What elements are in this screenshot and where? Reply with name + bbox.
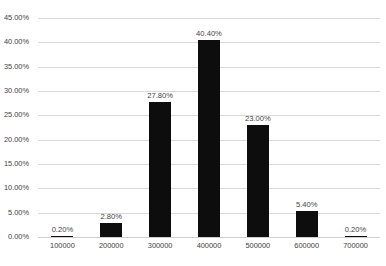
bar[interactable] <box>345 236 367 238</box>
y-axis-tick-label: 5.00% <box>0 209 29 217</box>
bar-slot: 5.40% <box>282 18 331 237</box>
bar[interactable] <box>100 223 122 237</box>
y-axis-tick-label: 45.00% <box>0 14 29 22</box>
bar-slot: 2.80% <box>87 18 136 237</box>
gridline <box>38 237 380 238</box>
x-axis-tick-label: 500000 <box>233 241 282 251</box>
y-axis-tick-label: 40.00% <box>0 38 29 46</box>
bar-slot: 0.20% <box>38 18 87 237</box>
x-axis: 1000002000003000004000005000006000007000… <box>38 241 380 255</box>
y-axis-tick-label: 20.00% <box>0 136 29 144</box>
bar-slot: 23.00% <box>233 18 282 237</box>
x-axis-tick-label: 700000 <box>331 241 380 251</box>
x-axis-tick-label: 300000 <box>136 241 185 251</box>
x-axis-tick-label: 100000 <box>38 241 87 251</box>
x-axis-tick-label: 600000 <box>282 241 331 251</box>
bar-value-label: 40.40% <box>196 29 222 38</box>
y-axis-tick-label: 15.00% <box>0 160 29 168</box>
bars-layer: 0.20%2.80%27.80%40.40%23.00%5.40%0.20% <box>38 18 380 237</box>
y-axis-tick-label: 35.00% <box>0 63 29 71</box>
bar-slot: 40.40% <box>185 18 234 237</box>
bar-value-label: 5.40% <box>296 200 318 209</box>
x-axis-tick-label: 400000 <box>185 241 234 251</box>
x-axis-tick-label: 200000 <box>87 241 136 251</box>
bar[interactable] <box>247 125 269 237</box>
bar[interactable] <box>51 236 73 238</box>
bar-value-label: 27.80% <box>147 91 173 100</box>
bar-value-label: 0.20% <box>345 225 367 234</box>
bar-slot: 0.20% <box>331 18 380 237</box>
bar-chart: 0.00%5.00%10.00%15.00%20.00%25.00%30.00%… <box>0 0 386 266</box>
bar-slot: 27.80% <box>136 18 185 237</box>
bar-value-label: 2.80% <box>100 212 122 221</box>
bar[interactable] <box>296 211 318 237</box>
y-axis-tick-label: 0.00% <box>0 233 29 241</box>
bar[interactable] <box>149 102 171 237</box>
bar-value-label: 0.20% <box>52 225 74 234</box>
y-axis-tick-label: 25.00% <box>0 111 29 119</box>
bar-value-label: 23.00% <box>245 114 271 123</box>
y-axis-tick-label: 10.00% <box>0 184 29 192</box>
y-axis-tick-label: 30.00% <box>0 87 29 95</box>
bar[interactable] <box>198 40 220 237</box>
